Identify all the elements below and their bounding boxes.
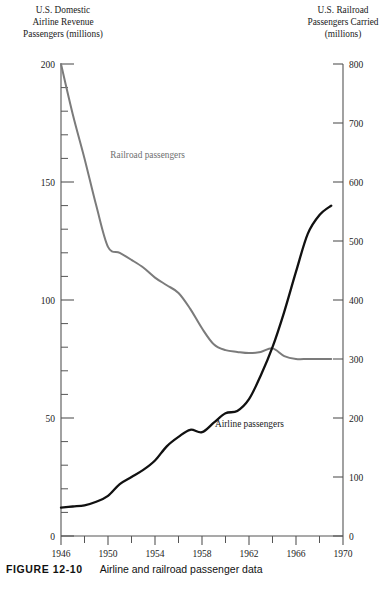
right-axis-tick-label: 600 bbox=[349, 178, 364, 188]
series-label-railroad-passengers: Railroad passengers bbox=[110, 150, 185, 160]
series-label-airline-passengers: Airline passengers bbox=[215, 419, 284, 429]
right-axis-tick-label: 500 bbox=[349, 237, 364, 247]
right-axis-tick-label: 0 bbox=[349, 532, 354, 542]
left-axis-title-line-1: U.S. Domestic bbox=[36, 5, 91, 15]
left-axis-tick-label: 150 bbox=[41, 178, 56, 188]
left-axis-title: U.S. Domestic Airline Revenue Passengers… bbox=[23, 5, 103, 40]
airline-railroad-line-chart: U.S. Domestic Airline Revenue Passengers… bbox=[0, 0, 387, 563]
left-axis-tick-label: 50 bbox=[46, 414, 56, 424]
right-axis-title-line-3: (millions) bbox=[325, 29, 362, 40]
annotation-layer: Railroad passengersAirline passengers bbox=[110, 150, 284, 429]
series-line-airline-passengers bbox=[61, 206, 331, 508]
right-axis-tick-label: 100 bbox=[349, 473, 364, 483]
x-axis-tick-label: 1946 bbox=[52, 549, 71, 559]
left-axis-title-line-2: Airline Revenue bbox=[32, 17, 93, 27]
right-axis-tick-label: 400 bbox=[349, 296, 364, 306]
left-axis-tick-label: 200 bbox=[41, 60, 56, 70]
right-axis-title-line-1: U.S. Railroad bbox=[318, 5, 369, 15]
x-axis-tick-label: 1962 bbox=[240, 549, 259, 559]
x-axis-tick-label: 1958 bbox=[193, 549, 212, 559]
left-axis-tick-label: 0 bbox=[50, 532, 55, 542]
series-layer bbox=[61, 64, 331, 508]
series-line-railroad-passengers bbox=[61, 64, 331, 359]
x-axis-tick-label: 1970 bbox=[334, 549, 353, 559]
x-axis-tick-label: 1950 bbox=[99, 549, 118, 559]
right-axis-tick-label: 800 bbox=[349, 60, 364, 70]
figure-caption-label: FIGURE 12-10 bbox=[6, 563, 83, 575]
left-axis-title-line-3: Passengers (millions) bbox=[23, 29, 103, 40]
right-axis-title-line-2: Passengers Carried bbox=[308, 17, 379, 27]
right-axis-tick-label: 200 bbox=[349, 414, 364, 424]
figure-container: U.S. Domestic Airline Revenue Passengers… bbox=[0, 0, 387, 590]
x-axis-tick-label: 1966 bbox=[287, 549, 306, 559]
axes-layer: 0501001502000100200300400500600700800194… bbox=[41, 60, 364, 560]
left-axis-tick-label: 100 bbox=[41, 296, 56, 306]
x-axis-tick-label: 1954 bbox=[146, 549, 165, 559]
figure-caption: FIGURE 12-10 Airline and railroad passen… bbox=[0, 563, 387, 590]
right-axis-tick-label: 700 bbox=[349, 119, 364, 129]
right-axis-title: U.S. Railroad Passengers Carried (millio… bbox=[308, 5, 379, 40]
right-axis-tick-label: 300 bbox=[349, 355, 364, 365]
figure-caption-text: Airline and railroad passenger data bbox=[100, 563, 263, 575]
